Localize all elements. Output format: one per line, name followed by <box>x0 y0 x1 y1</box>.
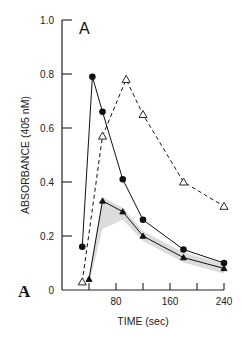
y-tick-label: 0.2 <box>40 231 54 242</box>
x-tick-label: 240 <box>216 296 233 307</box>
shaded-error-band <box>89 197 224 284</box>
circle-marker <box>119 176 126 183</box>
x-tick-label: 80 <box>110 296 122 307</box>
triangle-marker <box>78 278 86 285</box>
y-tick-label: 0.8 <box>40 69 54 80</box>
triangle-marker <box>122 75 130 82</box>
series-line-1 <box>82 77 224 263</box>
triangle-marker <box>99 132 107 139</box>
circle-marker <box>79 244 86 251</box>
x-axis-title: TIME (sec) <box>117 315 168 327</box>
triangle-marker <box>220 202 228 209</box>
y-tick-label: 0.4 <box>40 177 54 188</box>
triangle-marker <box>139 111 147 118</box>
y-tick-label: 1.0 <box>40 15 54 26</box>
triangle-marker <box>180 178 188 185</box>
y-tick-label: 0 <box>48 285 54 296</box>
circle-marker <box>89 73 96 80</box>
absorbance-chart: 00.20.40.60.81.080160240TIME (sec)ABSORB… <box>0 0 241 348</box>
circle-marker <box>180 246 187 253</box>
circle-marker <box>99 109 106 116</box>
circle-marker <box>140 217 147 224</box>
y-tick-label: 0.6 <box>40 123 54 134</box>
triangle-marker <box>86 276 92 281</box>
x-tick-label: 160 <box>162 296 179 307</box>
panel-label: A <box>79 20 90 37</box>
y-axis-title: ABSORBANCE (405 nM) <box>19 96 31 214</box>
figure-label: A <box>18 282 31 301</box>
